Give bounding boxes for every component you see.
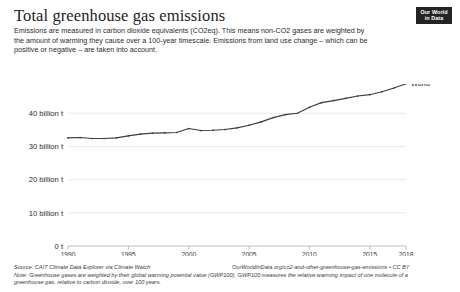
y-axis-tick-label: 0 t: [55, 242, 64, 251]
data-point[interactable]: [345, 97, 347, 99]
chart-subtitle: Emissions are measured in carbon dioxide…: [14, 26, 376, 55]
data-point[interactable]: [393, 87, 395, 89]
data-point[interactable]: [164, 132, 166, 134]
data-point[interactable]: [248, 124, 250, 126]
chart-footer: Source: CAIT Climate Data Explorer via C…: [14, 264, 450, 286]
x-axis-tick-label: 2015: [362, 251, 377, 257]
page-title: Total greenhouse gas emissions: [14, 6, 394, 25]
x-axis-tick-marks: [68, 246, 406, 250]
x-axis-tick-label: 2000: [181, 251, 196, 257]
y-axis-tick-label: 20 billion t: [29, 175, 64, 184]
data-point[interactable]: [212, 129, 214, 131]
data-point[interactable]: [284, 114, 286, 116]
y-axis-tick-label: 10 billion t: [29, 209, 64, 218]
data-point[interactable]: [309, 106, 311, 108]
line-series-world[interactable]: [68, 84, 406, 138]
series-world-points[interactable]: [67, 84, 407, 139]
data-point[interactable]: [357, 95, 359, 97]
data-point[interactable]: [103, 138, 105, 140]
data-point[interactable]: [140, 133, 142, 135]
y-axis-tick-labels: 0 t10 billion t20 billion t30 billion t4…: [29, 109, 64, 251]
data-point[interactable]: [321, 102, 323, 104]
data-point[interactable]: [381, 91, 383, 93]
x-axis-tick-label: 1995: [121, 251, 136, 257]
chart-figure: Total greenhouse gas emissions Emissions…: [0, 0, 460, 292]
data-point[interactable]: [91, 138, 93, 140]
footer-link[interactable]: OurWorldInData.org/co2-and-other-greenho…: [232, 264, 410, 271]
data-point[interactable]: [333, 100, 335, 102]
x-axis-tick-label: 1990: [61, 251, 76, 257]
data-point[interactable]: [260, 121, 262, 123]
data-point[interactable]: [224, 129, 226, 131]
footer-note: Note: Greenhouse gases are weighted by t…: [14, 272, 414, 286]
footer-source: Source: CAIT Climate Data Explorer via C…: [14, 264, 150, 271]
data-point[interactable]: [152, 132, 154, 134]
data-point[interactable]: [67, 137, 69, 139]
data-point[interactable]: [272, 117, 274, 119]
x-axis-tick-label: 2005: [242, 251, 257, 257]
series-end-label: World: [411, 84, 430, 88]
data-point[interactable]: [200, 130, 202, 132]
data-point[interactable]: [188, 128, 190, 130]
chart-header: Total greenhouse gas emissions Emissions…: [14, 6, 394, 55]
x-axis-tick-label: 2010: [302, 251, 317, 257]
our-world-in-data-logo[interactable]: Our World in Data: [416, 7, 452, 24]
line-chart-svg: 0 t10 billion t20 billion t30 billion t4…: [0, 84, 460, 256]
data-point[interactable]: [176, 132, 178, 134]
data-point[interactable]: [115, 137, 117, 139]
logo-line-2: in Data: [416, 15, 452, 21]
footer-top-row: Source: CAIT Climate Data Explorer via C…: [14, 264, 450, 271]
y-axis-tick-label: 40 billion t: [29, 109, 64, 118]
series-world-label: World: [411, 84, 430, 88]
data-point[interactable]: [297, 112, 299, 114]
x-axis-tick-label: 2018: [399, 251, 414, 257]
data-point[interactable]: [128, 135, 130, 137]
y-axis-tick-label: 30 billion t: [29, 142, 64, 151]
data-point[interactable]: [369, 94, 371, 96]
plot-area: 0 t10 billion t20 billion t30 billion t4…: [0, 84, 460, 256]
series-world-line[interactable]: [68, 84, 406, 138]
data-point[interactable]: [79, 137, 81, 139]
x-axis-tick-labels: 1990199520002005201020152018: [61, 251, 414, 257]
data-point[interactable]: [236, 127, 238, 129]
